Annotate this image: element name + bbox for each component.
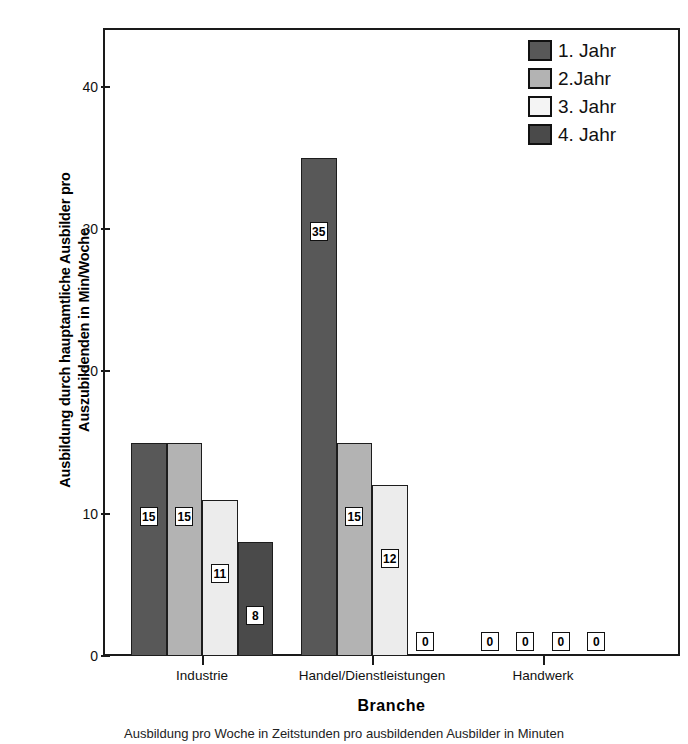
x-axis-tick-mark	[202, 656, 204, 665]
legend-item[interactable]: 1. Jahr	[528, 36, 676, 64]
bar	[131, 443, 167, 656]
bar	[238, 542, 274, 656]
bar-value-label: 11	[211, 564, 229, 583]
bar	[372, 485, 408, 656]
legend-swatch-icon	[528, 68, 552, 89]
bar-value-label: 15	[345, 507, 363, 526]
legend-item-label: 1. Jahr	[558, 40, 616, 61]
legend-item[interactable]: 4. Jahr	[528, 120, 676, 148]
x-axis-tick-mark	[372, 656, 374, 665]
legend-item-label: 2.Jahr	[558, 68, 611, 89]
x-axis-category-label: Handwerk	[513, 668, 574, 683]
bar-value-label: 35	[310, 222, 328, 241]
bar-value-label: 0	[587, 632, 605, 651]
legend-item[interactable]: 3. Jahr	[528, 92, 676, 120]
legend: 1. Jahr2.Jahr3. Jahr4. Jahr	[528, 36, 676, 148]
bar	[337, 443, 373, 656]
x-axis-category-label: Handel/Dienstleistungen	[299, 668, 445, 683]
legend-swatch-icon	[528, 96, 552, 117]
legend-item-label: 4. Jahr	[558, 124, 616, 145]
x-axis-tick-mark	[543, 656, 545, 665]
bar-value-label: 12	[381, 549, 399, 568]
bar-value-label: 8	[246, 606, 264, 625]
bar	[167, 443, 203, 656]
x-axis-category-label: Industrie	[176, 668, 228, 683]
bar-value-label: 15	[175, 507, 193, 526]
bar-value-label: 0	[552, 632, 570, 651]
legend-swatch-icon	[528, 124, 552, 145]
bar-value-label: 15	[140, 507, 158, 526]
legend-item[interactable]: 2.Jahr	[528, 64, 676, 92]
bar-value-label: 0	[516, 632, 534, 651]
legend-item-label: 3. Jahr	[558, 96, 616, 117]
x-axis-title: Branche	[103, 697, 680, 715]
bar-value-label: 0	[416, 632, 434, 651]
bar-value-label: 0	[481, 632, 499, 651]
legend-swatch-icon	[528, 40, 552, 61]
figure-caption: Ausbildung pro Woche in Zeitstunden pro …	[0, 726, 688, 744]
